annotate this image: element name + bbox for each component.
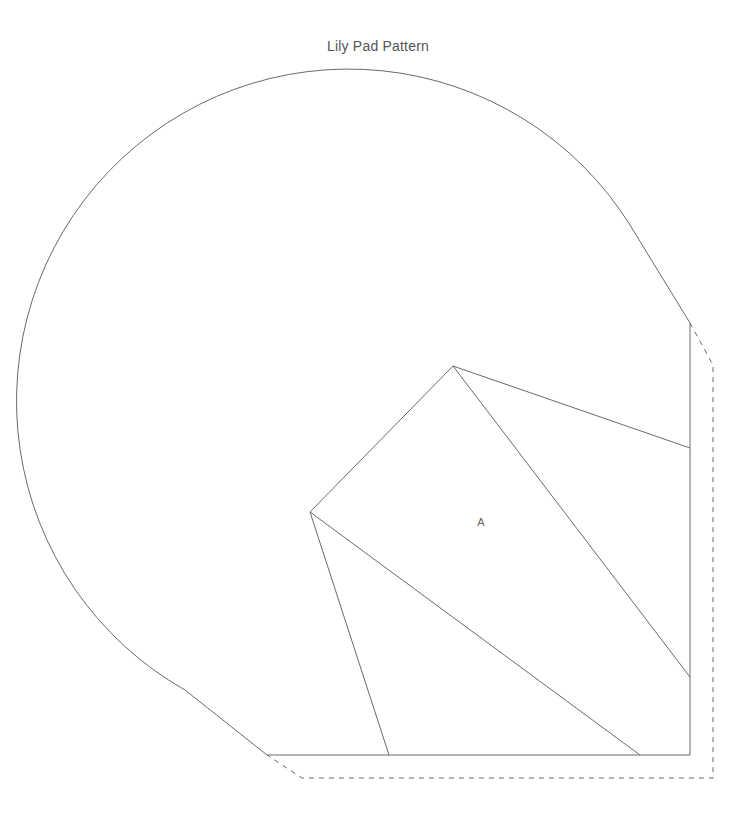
square-diagonal-bottom — [310, 512, 640, 755]
seam-allowance-dashed-line — [267, 323, 713, 778]
lily-pad-outline — [17, 69, 690, 755]
piece-label-a: A — [477, 516, 485, 528]
square-diagonal-right — [453, 366, 690, 677]
square-top-right-edge — [453, 366, 690, 448]
pattern-canvas: A — [0, 0, 756, 835]
inner-piece-lines — [310, 366, 690, 755]
square-left-leg — [310, 512, 389, 755]
square-top-left-edge — [310, 366, 453, 512]
